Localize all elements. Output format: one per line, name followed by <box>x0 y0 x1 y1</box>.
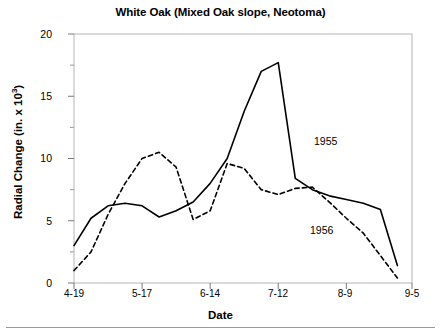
footer-divider <box>6 327 435 328</box>
series-line-1955 <box>74 63 397 266</box>
chart-figure: White Oak (Mixed Oak slope, Neotoma) Rad… <box>0 0 441 332</box>
series-line-1956 <box>74 152 397 278</box>
y-axis-ticks <box>68 34 74 283</box>
plot-frame <box>74 34 412 283</box>
plot-area <box>0 0 441 332</box>
x-axis-ticks <box>74 283 412 289</box>
